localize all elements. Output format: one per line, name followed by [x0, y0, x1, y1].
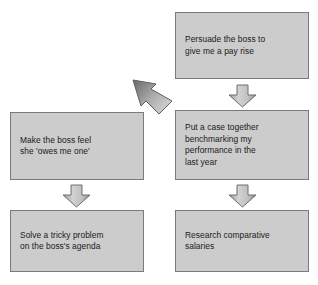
flowchart-node-research-comparative-salaries-label: Research comparative salaries: [176, 230, 275, 253]
flowchart-node-make-the-boss-feel-label: Make the boss feel she 'owes me one': [11, 135, 96, 158]
flowchart-node-research-comparative-salaries[interactable]: Research comparative salaries: [175, 210, 309, 272]
arrow-down-left-icon-persuade-to-make-boss: [126, 64, 178, 116]
flowchart-node-persuade-label: Persuade the boss to give me a pay rise: [176, 34, 270, 57]
flowchart-node-solve-a-tricky-problem[interactable]: Solve a tricky problem on the boss's age…: [10, 210, 144, 272]
diagram-canvas: Persuade the boss to give me a pay rise …: [0, 0, 318, 285]
arrow-down-icon-make-boss-to-solve: [62, 184, 91, 208]
flowchart-node-put-case-together-label: Put a case together benchmarking my perf…: [176, 122, 264, 168]
arrow-down-icon-persuade-to-put-case: [228, 84, 257, 108]
flowchart-node-solve-a-tricky-problem-label: Solve a tricky problem on the boss's age…: [11, 230, 108, 253]
flowchart-node-persuade[interactable]: Persuade the boss to give me a pay rise: [175, 12, 309, 79]
flowchart-node-make-the-boss-feel[interactable]: Make the boss feel she 'owes me one': [10, 112, 144, 180]
flowchart-node-put-case-together[interactable]: Put a case together benchmarking my perf…: [175, 110, 309, 180]
arrow-down-icon-put-case-to-research: [228, 184, 257, 208]
